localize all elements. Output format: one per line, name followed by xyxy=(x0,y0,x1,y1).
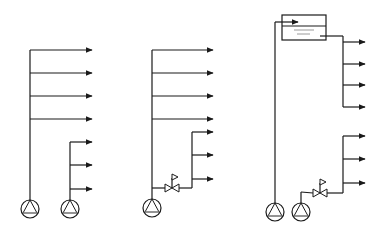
valve-actuator-flag xyxy=(320,179,326,185)
pump-casing xyxy=(292,203,310,221)
pump-icon xyxy=(61,200,79,218)
pump-casing xyxy=(61,200,79,218)
pump-icon xyxy=(21,200,39,218)
pressure-reducing-valve-icon xyxy=(313,179,327,197)
roof-tank xyxy=(282,15,326,40)
system-single-pump-with-pressure-reducing-valve xyxy=(143,50,213,217)
pump-casing xyxy=(143,199,161,217)
system-roof-tank-with-pressure-reducing-valve xyxy=(266,15,365,221)
valve-body-right xyxy=(172,184,179,192)
valve-body-left xyxy=(165,184,172,192)
pump-icon xyxy=(143,199,161,217)
pressure-reducing-valve-icon xyxy=(165,174,179,192)
pump-casing xyxy=(21,200,39,218)
pump-icon xyxy=(292,203,310,221)
valve-inlet-pipe xyxy=(301,192,313,193)
system-two-pump-direct xyxy=(21,50,92,218)
valve-actuator-flag xyxy=(172,174,178,180)
pump-icon xyxy=(266,203,284,221)
diagram-layer xyxy=(21,15,365,221)
valve-body-right xyxy=(320,189,327,197)
valve-body-left xyxy=(313,189,320,197)
tank-body xyxy=(282,15,326,40)
pump-casing xyxy=(266,203,284,221)
hydraulic-diagram xyxy=(0,0,387,240)
